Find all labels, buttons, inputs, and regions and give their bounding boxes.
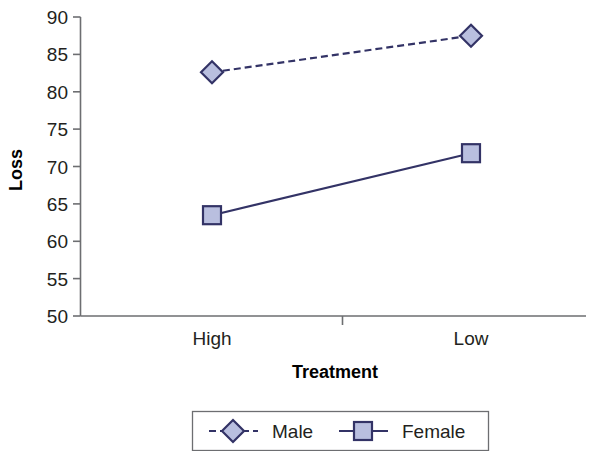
y-tick-label-6: 60 [47, 231, 68, 252]
legend-swatch-male-marker [222, 420, 244, 442]
y-tick-label-5: 65 [47, 194, 68, 215]
series-male-line [212, 36, 471, 73]
y-tick-label-7: 55 [47, 269, 68, 290]
legend-item-male[interactable]: Male [209, 420, 313, 442]
legend: Male Female [193, 412, 489, 451]
series-female-line [212, 153, 471, 215]
legend-item-female[interactable]: Female [339, 421, 465, 442]
y-tick-label-3: 75 [47, 119, 68, 140]
y-axis-ticks [73, 17, 81, 316]
data-point-male-low [460, 25, 482, 47]
y-tick-label-1: 85 [47, 44, 68, 65]
x-axis-title: Treatment [292, 362, 378, 382]
interaction-plot: 90 85 80 75 70 65 60 55 50 Loss High Low… [0, 0, 595, 451]
y-tick-label-2: 80 [47, 82, 68, 103]
y-tick-label-4: 70 [47, 157, 68, 178]
x-category-label-low: Low [454, 328, 489, 349]
y-tick-label-8: 50 [47, 306, 68, 327]
series-female [203, 144, 480, 224]
series-male [201, 25, 482, 84]
y-axis-tick-labels: 90 85 80 75 70 65 60 55 50 [47, 7, 68, 327]
legend-label-female: Female [402, 421, 465, 442]
data-point-female-high [203, 206, 221, 224]
y-tick-label-0: 90 [47, 7, 68, 28]
legend-swatch-female-marker [354, 422, 372, 440]
data-point-male-high [201, 61, 223, 83]
data-point-female-low [462, 144, 480, 162]
x-category-label-high: High [192, 328, 231, 349]
plot-canvas: 90 85 80 75 70 65 60 55 50 Loss High Low… [0, 0, 595, 451]
legend-label-male: Male [272, 421, 313, 442]
y-axis-title: Loss [6, 149, 26, 191]
